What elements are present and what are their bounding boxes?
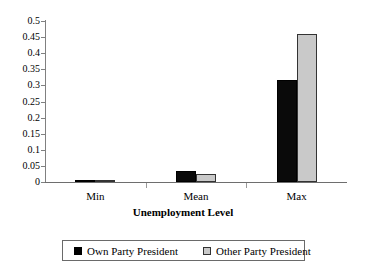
y-axis-tick-text: 0.2 xyxy=(0,113,40,123)
y-axis-tick-text: 0.1 xyxy=(0,145,40,155)
x-axis-line xyxy=(45,182,347,183)
y-axis-tick-text: 0 xyxy=(0,177,40,187)
bar-mean-own xyxy=(176,171,196,182)
y-axis-tick-text: 0.45 xyxy=(0,32,40,42)
legend-item-other-party-president: Other Party President xyxy=(203,245,311,257)
y-axis-tick-mark xyxy=(41,182,45,183)
bar-min-own xyxy=(75,180,95,182)
y-axis-tick-text: 0.4 xyxy=(0,48,40,58)
y-axis-tick-text: 0.35 xyxy=(0,64,40,74)
legend-swatch-icon-other xyxy=(203,247,211,255)
y-axis-tick-text: 0.15 xyxy=(0,129,40,139)
bar-chart: 00.050.10.150.20.250.30.350.40.450.5 Min… xyxy=(0,0,366,267)
y-axis-tick-text: 0.25 xyxy=(0,97,40,107)
x-axis-tick-mark xyxy=(246,183,247,188)
bar-mean-other xyxy=(196,174,216,182)
x-axis-label-max: Max xyxy=(246,190,347,203)
legend-swatch-icon-own xyxy=(74,247,82,255)
x-axis-label-min: Min xyxy=(45,190,146,203)
chart-legend: Own Party President Other Party Presiden… xyxy=(62,240,305,261)
x-axis-label-mean: Mean xyxy=(146,190,247,203)
plot-area xyxy=(45,21,347,182)
y-axis-tick-text: 0.05 xyxy=(0,161,40,171)
y-axis-tick-text: 0.5 xyxy=(0,16,40,26)
x-axis-tick-mark xyxy=(146,183,147,188)
bar-max-own xyxy=(277,80,297,182)
x-axis-title: Unemployment Level xyxy=(0,206,366,219)
y-axis-tick-text: 0.3 xyxy=(0,80,40,90)
legend-label-own: Own Party President xyxy=(87,245,178,257)
bar-max-other xyxy=(297,34,317,182)
bar-min-other xyxy=(95,180,115,182)
legend-item-own-party-president: Own Party President xyxy=(74,245,178,257)
legend-label-other: Other Party President xyxy=(216,245,311,257)
